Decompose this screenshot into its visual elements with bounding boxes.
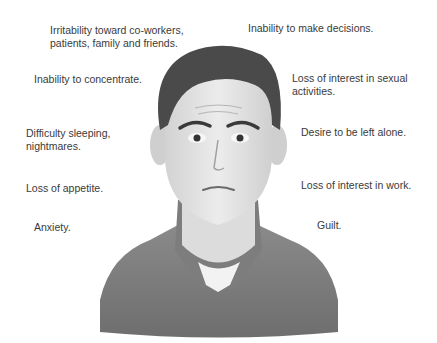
label-line: Guilt.: [317, 219, 342, 232]
label-line: Inability to make decisions.: [248, 22, 373, 35]
label-line: Loss of interest in work.: [301, 179, 411, 192]
symptom-anxiety: Anxiety.: [34, 221, 71, 234]
symptom-decisions: Inability to make decisions.: [248, 22, 373, 35]
right-eye: [237, 135, 244, 142]
symptom-sleeping: Difficulty sleeping, nightmares.: [26, 127, 110, 153]
label-line: Loss of appetite.: [26, 182, 103, 195]
stressed-man-illustration: [0, 0, 437, 343]
label-line: Difficulty sleeping,: [26, 127, 110, 140]
label-line: activities.: [292, 85, 408, 98]
symptom-left-alone: Desire to be left alone.: [301, 126, 406, 139]
symptom-appetite: Loss of appetite.: [26, 182, 103, 195]
label-line: patients, family and friends.: [50, 37, 184, 50]
left-eye: [194, 135, 201, 142]
symptom-sexual-interest: Loss of interest in sexual activities.: [292, 72, 408, 98]
label-line: Irritability toward co-workers,: [50, 24, 184, 37]
symptom-guilt: Guilt.: [317, 219, 342, 232]
symptom-concentration: Inability to concentrate.: [34, 73, 142, 86]
label-line: Inability to concentrate.: [34, 73, 142, 86]
symptom-irritability: Irritability toward co-workers, patients…: [50, 24, 184, 50]
label-line: Anxiety.: [34, 221, 71, 234]
label-line: Desire to be left alone.: [301, 126, 406, 139]
symptom-work-interest: Loss of interest in work.: [301, 179, 411, 192]
label-line: nightmares.: [26, 140, 110, 153]
label-line: Loss of interest in sexual: [292, 72, 408, 85]
